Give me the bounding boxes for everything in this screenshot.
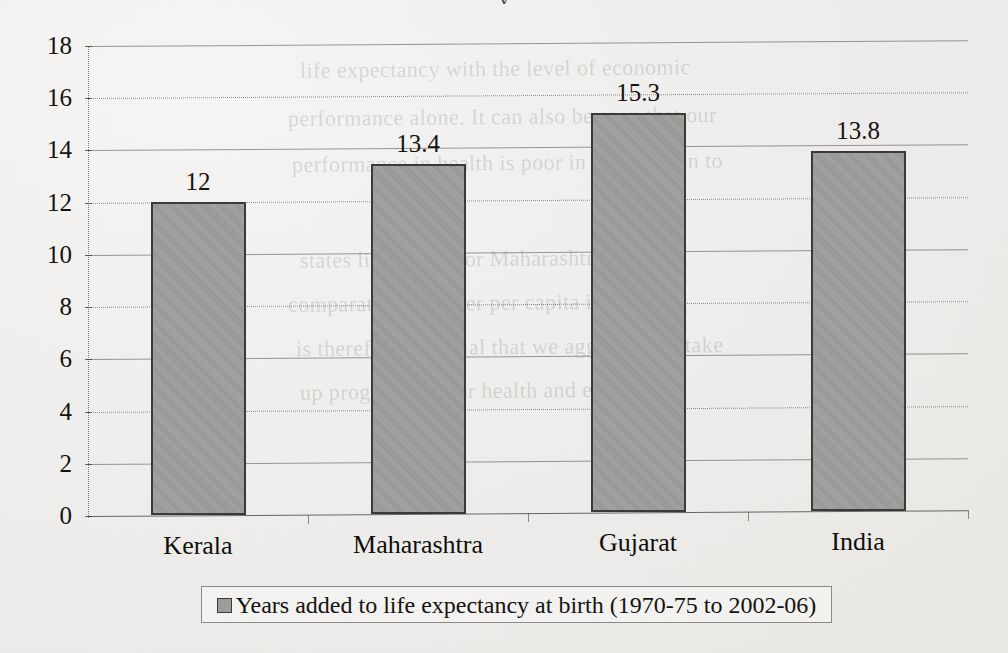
y-axis-tick-label: 18 [16,33,72,58]
legend-entry: Years added to life expectancy at birth … [217,593,817,617]
bar-value-label: 12 [138,169,258,194]
y-axis-tick-label: 16 [16,85,72,110]
bar-value-label: 13.4 [358,131,478,156]
y-axis-tick-label: 4 [16,399,72,424]
bar-chart: 024681012141618 1213.415.313.8 KeralaMah… [0,0,1008,653]
y-axis-tick-label: 8 [16,294,72,319]
bar [811,151,906,511]
x-axis-category-label: Maharashtra [298,532,538,558]
x-axis-tick [968,510,969,519]
chart-legend: Years added to life expectancy at birth … [201,586,832,623]
gridline [88,40,968,47]
bar-value-label: 13.8 [798,118,918,143]
bar [591,113,686,513]
y-axis-tick-label: 0 [16,503,72,528]
y-axis-tick-label: 6 [16,346,72,371]
legend-label: Years added to life expectancy at birth … [236,593,817,617]
x-axis-category-label: Gujarat [518,530,758,556]
bar [371,164,466,514]
gridline [88,92,968,99]
x-axis-tick [748,512,749,521]
x-axis-category-label: Kerala [78,533,318,559]
y-axis-tick-label: 2 [16,451,72,476]
legend-swatch-icon [217,598,232,613]
y-axis-tick-label: 10 [16,242,72,267]
bar-value-label: 15.3 [578,80,698,105]
y-axis-tick-label: 14 [16,137,72,162]
x-axis-category-label: India [738,529,978,555]
y-axis-tick-label: 12 [16,190,72,215]
bar [151,202,246,515]
y-axis-line [88,46,89,518]
x-axis-tick [308,515,309,524]
x-axis-tick [528,513,529,522]
